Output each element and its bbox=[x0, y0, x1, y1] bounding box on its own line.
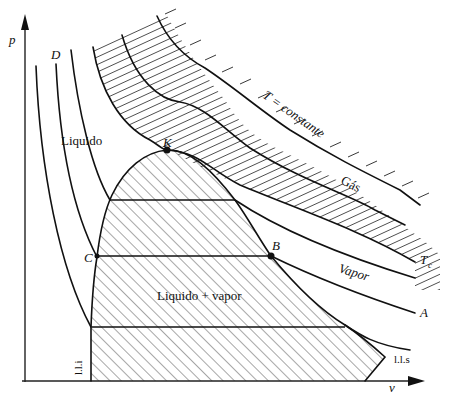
p-axis bbox=[21, 14, 29, 382]
label-d: D bbox=[50, 47, 61, 62]
isotherm-leftmost bbox=[36, 66, 91, 327]
point-c bbox=[95, 254, 100, 259]
label-lls: l.l.s bbox=[394, 353, 410, 365]
pv-phase-diagram: p v D Liquido K B C Liquido + vapor Vapo… bbox=[0, 0, 460, 403]
svg-text:c: c bbox=[428, 260, 432, 270]
label-lli: l.l.i bbox=[72, 360, 84, 375]
point-b bbox=[268, 253, 275, 260]
p-axis-label: p bbox=[8, 32, 16, 47]
label-k: K bbox=[162, 135, 173, 150]
label-c: C bbox=[84, 250, 93, 265]
label-liquido: Liquido bbox=[61, 133, 102, 148]
isotherm-liquid-3 bbox=[71, 50, 110, 200]
label-liquido-vapor: Liquido + vapor bbox=[157, 288, 242, 303]
label-b: B bbox=[272, 238, 280, 253]
svg-text:T: T bbox=[420, 252, 428, 267]
label-a: A bbox=[419, 305, 428, 320]
label-vapor: Vapor bbox=[337, 261, 372, 285]
v-axis-label: v bbox=[389, 380, 395, 395]
